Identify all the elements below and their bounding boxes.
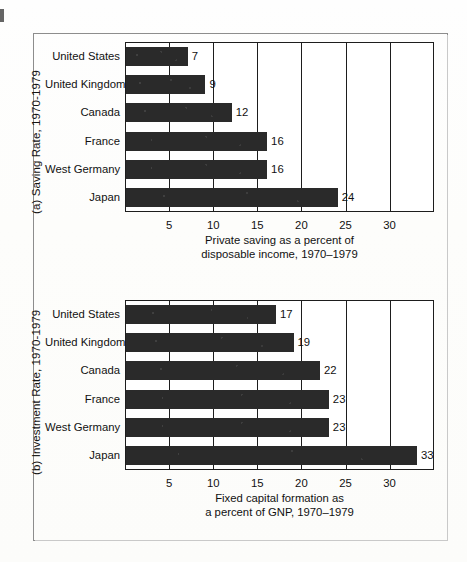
bar-value-label: 24 — [342, 192, 355, 203]
x-tick-label: 20 — [281, 478, 321, 489]
panel-b-plot-area — [125, 300, 434, 470]
x-tick-label: 10 — [193, 478, 233, 489]
x-tick-label: 5 — [149, 478, 189, 489]
x-tick-label: 30 — [370, 478, 410, 489]
bar-value-label: 16 — [271, 164, 284, 175]
gridline-15 — [257, 301, 258, 469]
gridline-5 — [169, 301, 170, 469]
gridline-10 — [213, 301, 214, 469]
bar-value-label: 7 — [192, 51, 198, 62]
gridline-30 — [390, 43, 391, 211]
category-label: West Germany — [45, 422, 120, 433]
bar — [126, 390, 329, 409]
panel-a-x-axis-caption: Private saving as a percent of disposabl… — [125, 234, 434, 261]
x-tick-label: 25 — [326, 478, 366, 489]
gridline-25 — [346, 301, 347, 469]
bar-value-label: 16 — [271, 136, 284, 147]
bar — [126, 132, 267, 151]
bar — [126, 305, 276, 324]
category-label: United Kingdom — [45, 79, 120, 90]
bar — [126, 160, 267, 179]
category-label: United States — [45, 51, 120, 62]
bar-value-label: 22 — [324, 365, 337, 376]
gridline-20 — [301, 301, 302, 469]
x-tick-label: 20 — [281, 220, 321, 231]
bar — [126, 446, 417, 465]
gridline-15 — [257, 43, 258, 211]
bar — [126, 47, 188, 66]
panel-a-caption-line2: disposable income, 1970–1979 — [125, 248, 434, 262]
bar — [126, 333, 294, 352]
category-label: United Kingdom — [45, 337, 120, 348]
category-label: Canada — [45, 365, 120, 376]
x-tick-label: 15 — [237, 478, 277, 489]
bar-value-label: 9 — [209, 79, 215, 90]
bar-value-label: 33 — [421, 450, 434, 461]
bar — [126, 188, 338, 207]
category-label: West Germany — [45, 164, 120, 175]
bar — [126, 418, 329, 437]
bar — [126, 75, 205, 94]
gridline-5 — [169, 43, 170, 211]
gridline-30 — [390, 301, 391, 469]
gridline-25 — [346, 43, 347, 211]
bar — [126, 103, 232, 122]
bar-value-label: 23 — [333, 394, 346, 405]
bar — [126, 361, 320, 380]
category-label: Japan — [45, 450, 120, 461]
category-label: Canada — [45, 107, 120, 118]
category-label: United States — [45, 309, 120, 320]
gridline-10 — [213, 43, 214, 211]
panel-b-caption-line2: a percent of GNP, 1970–1979 — [125, 506, 434, 520]
bar-value-label: 17 — [280, 309, 293, 320]
panel-b-caption-line1: Fixed capital formation as — [125, 492, 434, 506]
panel-a-side-label: (a) Saving Rate, 1970-1979 — [30, 70, 42, 214]
bar-value-label: 23 — [333, 422, 346, 433]
gridline-20 — [301, 43, 302, 211]
x-tick-label: 5 — [149, 220, 189, 231]
category-label: France — [45, 394, 120, 405]
x-tick-label: 25 — [326, 220, 366, 231]
panel-b-x-axis-caption: Fixed capital formation as a percent of … — [125, 492, 434, 519]
panel-a-caption-line1: Private saving as a percent of — [125, 234, 434, 248]
category-label: France — [45, 136, 120, 147]
category-label: Japan — [45, 192, 120, 203]
x-tick-label: 15 — [237, 220, 277, 231]
page-edge-mark — [0, 9, 4, 22]
panel-b-side-label: (b) Investment Rate, 1970-1979 — [30, 310, 42, 475]
figure-root: (a) Saving Rate, 1970-1979 United States… — [0, 0, 467, 562]
panel-a-plot-area — [125, 42, 434, 212]
x-tick-label: 30 — [370, 220, 410, 231]
x-tick-label: 10 — [193, 220, 233, 231]
bar-value-label: 12 — [236, 107, 249, 118]
bar-value-label: 19 — [298, 337, 311, 348]
